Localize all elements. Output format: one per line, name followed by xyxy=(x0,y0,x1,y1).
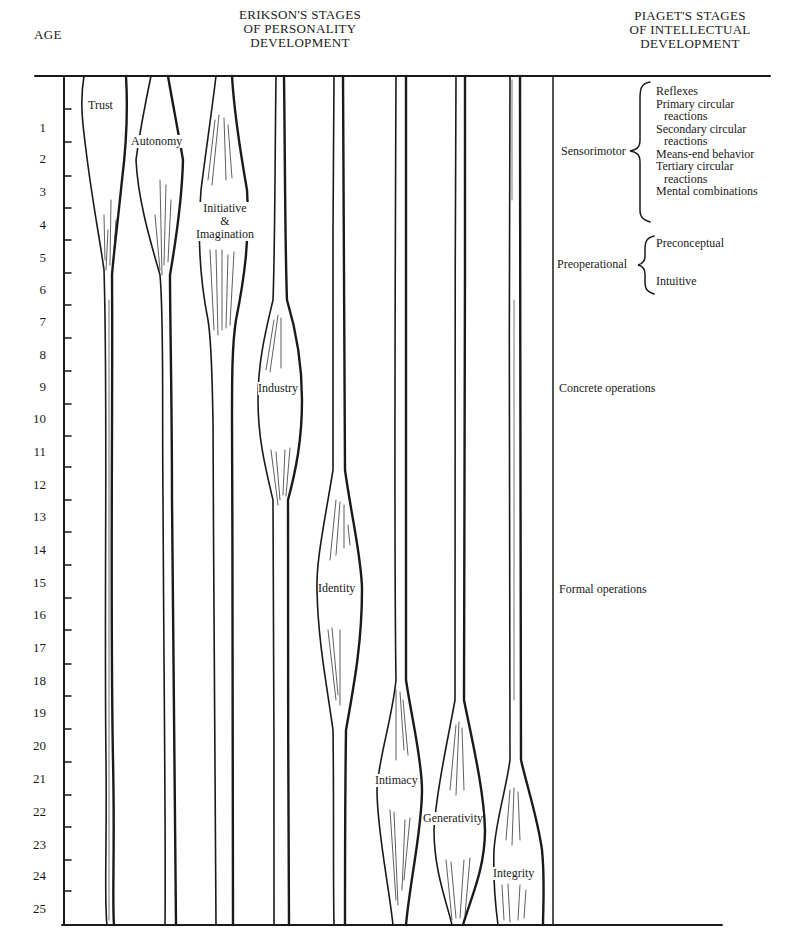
age-label-2: 2 xyxy=(18,152,46,165)
piaget-stage-formal-operations: Formal operations xyxy=(559,583,647,596)
substage-tertiary-circular: Tertiary circular xyxy=(656,160,758,173)
stage-label-integrity: Integrity xyxy=(493,867,534,880)
stage-label-intimacy: Intimacy xyxy=(375,774,418,787)
stage-label-trust: Trust xyxy=(88,99,113,112)
stage-industry-shape xyxy=(258,76,302,925)
stage-label-autonomy: Autonomy xyxy=(131,135,182,148)
age-label-14: 14 xyxy=(18,543,46,556)
age-label-23: 23 xyxy=(18,838,46,851)
substage-primary-circular-cont: reactions xyxy=(656,110,758,123)
stage-label-initiative-line-3: Imagination xyxy=(189,228,261,241)
age-ticks xyxy=(64,109,71,891)
brace-preoperational xyxy=(638,236,654,294)
age-label-25: 25 xyxy=(18,902,46,915)
stage-label-initiative: Initiative & Imagination xyxy=(189,202,261,241)
age-label-5: 5 xyxy=(18,251,46,264)
stage-trust-shape xyxy=(82,76,127,925)
age-label-20: 20 xyxy=(18,739,46,752)
age-label-1: 1 xyxy=(18,121,46,134)
age-label-18: 18 xyxy=(18,674,46,687)
stage-intimacy-shape xyxy=(377,76,422,925)
substage-intuitive: Intuitive xyxy=(656,275,697,288)
piaget-stage-concrete-operations: Concrete operations xyxy=(559,382,655,395)
brace-sensorimotor xyxy=(630,82,650,222)
age-label-10: 10 xyxy=(18,412,46,425)
stage-label-generativity: Generativity xyxy=(423,812,483,825)
age-label-21: 21 xyxy=(18,772,46,785)
substage-reflexes: Reflexes xyxy=(656,85,758,98)
substage-list-sensorimotor: Reflexes Primary circular reactions Seco… xyxy=(656,85,758,198)
age-label-22: 22 xyxy=(18,805,46,818)
substage-secondary-circular-cont: reactions xyxy=(656,135,758,148)
substage-mental-combinations: Mental combinations xyxy=(656,185,758,198)
age-label-4: 4 xyxy=(18,218,46,231)
age-label-24: 24 xyxy=(18,869,46,882)
age-label-16: 16 xyxy=(18,608,46,621)
age-label-7: 7 xyxy=(18,315,46,328)
stage-autonomy-shape xyxy=(136,76,183,925)
piaget-stage-sensorimotor: Sensorimotor xyxy=(561,145,626,158)
age-label-15: 15 xyxy=(18,576,46,589)
age-label-9: 9 xyxy=(18,380,46,393)
stage-generativity-shape xyxy=(434,76,485,925)
piaget-stage-preoperational: Preoperational xyxy=(557,258,627,271)
age-label-8: 8 xyxy=(18,348,46,361)
age-label-19: 19 xyxy=(18,706,46,719)
stage-label-industry: Industry xyxy=(258,382,298,395)
age-label-12: 12 xyxy=(18,478,46,491)
stage-label-identity: Identity xyxy=(318,582,355,595)
stage-identity-shape xyxy=(317,76,362,925)
age-label-13: 13 xyxy=(18,510,46,523)
age-label-17: 17 xyxy=(18,641,46,654)
age-label-6: 6 xyxy=(18,283,46,296)
substage-preconceptual: Preconceptual xyxy=(656,237,724,250)
age-label-3: 3 xyxy=(18,185,46,198)
stage-integrity-shape xyxy=(494,76,544,925)
age-label-11: 11 xyxy=(18,445,46,458)
